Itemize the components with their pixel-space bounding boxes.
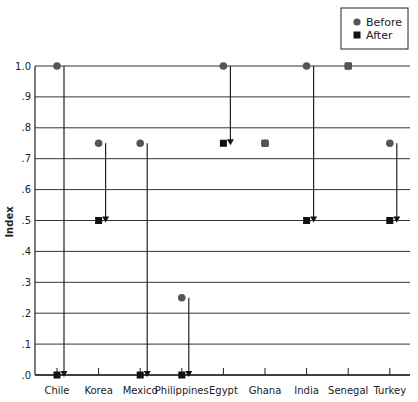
x-category-label: Egypt <box>209 385 238 396</box>
x-category-label: Mexico <box>123 385 158 396</box>
x-category-label: Ghana <box>249 385 282 396</box>
after-marker <box>54 372 61 379</box>
y-tick-label: .5 <box>21 215 31 226</box>
x-category-label: Turkey <box>373 385 407 396</box>
x-category-label: India <box>294 385 319 396</box>
before-marker <box>344 62 352 70</box>
after-marker <box>178 372 185 379</box>
before-marker <box>53 62 61 70</box>
before-marker <box>386 139 394 147</box>
arrow-down-icon <box>310 217 317 223</box>
legend: Before After <box>341 8 408 49</box>
arrow-down-icon <box>185 371 192 377</box>
after-marker <box>386 217 393 224</box>
after-marker <box>95 217 102 224</box>
y-tick-label: .1 <box>21 339 31 350</box>
before-marker <box>95 139 103 147</box>
before-marker <box>178 294 186 302</box>
change-arrows <box>61 66 401 377</box>
legend-before-label: Before <box>366 16 402 29</box>
x-axis-categories: ChileKoreaMexicoPhilippinesEgyptGhanaInd… <box>44 368 406 396</box>
arrow-down-icon <box>144 371 151 377</box>
x-category-label: Senegal <box>328 385 368 396</box>
arrow-down-icon <box>61 371 68 377</box>
legend-after-label: After <box>366 29 393 42</box>
y-tick-label: .3 <box>21 277 31 288</box>
after-marker <box>220 140 227 147</box>
y-tick-label: .9 <box>21 91 31 102</box>
y-tick-label: 1.0 <box>15 61 31 72</box>
before-marker <box>220 62 228 70</box>
legend-after-marker-icon <box>354 32 361 39</box>
y-tick-label: .6 <box>21 184 31 195</box>
before-marker <box>303 62 311 70</box>
legend-before-marker-icon <box>353 18 360 25</box>
x-category-label: Korea <box>84 385 112 396</box>
dumbbell-chart: .0.1.2.3.4.5.6.7.8.91.0 ChileKoreaMexico… <box>0 0 418 402</box>
y-tick-label: .8 <box>21 122 31 133</box>
y-tick-label: .7 <box>21 153 31 164</box>
y-axis-title: Index <box>4 206 15 238</box>
before-marker <box>136 139 144 147</box>
after-marker <box>303 217 310 224</box>
before-marker <box>261 139 269 147</box>
y-tick-label: .0 <box>21 370 31 381</box>
y-tick-label: .4 <box>21 246 31 257</box>
arrow-down-icon <box>227 139 234 145</box>
y-axis-ticks: .0.1.2.3.4.5.6.7.8.91.0 <box>15 61 31 381</box>
arrow-down-icon <box>393 217 400 223</box>
y-tick-label: .2 <box>21 308 31 319</box>
x-category-label: Philippines <box>155 385 209 396</box>
after-marker <box>137 372 144 379</box>
gridlines <box>35 66 410 375</box>
arrow-down-icon <box>102 217 109 223</box>
x-category-label: Chile <box>44 385 69 396</box>
